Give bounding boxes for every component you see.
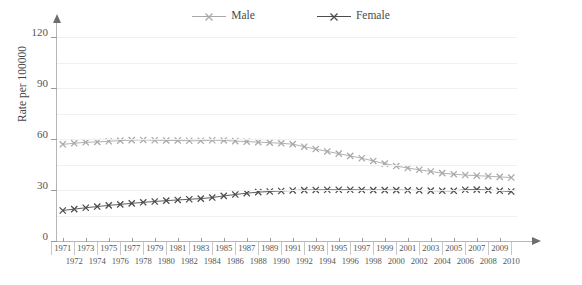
- x-tick: [454, 238, 455, 242]
- y-tick-label: 0: [0, 231, 48, 242]
- legend-label-male: Male: [231, 10, 255, 22]
- plot-area: [57, 29, 517, 241]
- legend-swatch-male: [192, 11, 226, 22]
- x-tick: [293, 238, 294, 242]
- y-tick-label: 60: [0, 129, 48, 140]
- x-axis-line: [57, 241, 533, 242]
- legend-item-male: Male: [192, 10, 255, 22]
- x-tick: [500, 238, 501, 242]
- x-label-separator: [51, 242, 52, 255]
- x-label-separator: [373, 242, 374, 255]
- x-tick: [86, 238, 87, 242]
- grid-line: [57, 216, 517, 217]
- series-layer: [57, 29, 517, 241]
- x-tick: [132, 238, 133, 242]
- x-label-separator: [442, 242, 443, 255]
- x-tick: [63, 238, 64, 242]
- data-point-marker: [370, 158, 376, 164]
- y-tick-label: 30: [0, 180, 48, 191]
- y-tick-label: 120: [0, 27, 48, 38]
- x-tick: [201, 238, 202, 242]
- x-tick: [385, 238, 386, 242]
- x-label-separator: [97, 242, 98, 255]
- legend-swatch-female: [317, 11, 351, 22]
- x-label-separator: [166, 242, 167, 255]
- x-tick: [155, 238, 156, 242]
- legend-item-female: Female: [317, 10, 390, 22]
- grid-line: [57, 88, 517, 89]
- x-label-separator: [419, 242, 420, 255]
- x-tick: [178, 238, 179, 242]
- x-tick: [224, 238, 225, 242]
- x-axis-arrow-icon: [532, 237, 541, 245]
- x-tick: [270, 238, 271, 242]
- x-label-separator: [189, 242, 190, 255]
- grid-line: [57, 165, 517, 166]
- grid-line: [57, 190, 517, 191]
- x-tick: [109, 238, 110, 242]
- x-label-separator: [327, 242, 328, 255]
- x-label-separator: [235, 242, 236, 255]
- legend-label-female: Female: [356, 10, 390, 22]
- y-tick-label: 90: [0, 78, 48, 89]
- grid-line: [57, 139, 517, 140]
- chart-container: Male Female Rate per 100000 0306090120 1…: [0, 0, 582, 285]
- x-label-separator: [74, 242, 75, 255]
- x-tick: [247, 238, 248, 242]
- x-tick: [431, 238, 432, 242]
- y-axis-arrow-icon: [53, 14, 61, 23]
- x-tick: [339, 238, 340, 242]
- x-label-separator: [350, 242, 351, 255]
- x-tick: [316, 238, 317, 242]
- x-label-separator: [281, 242, 282, 255]
- x-label-separator: [143, 242, 144, 255]
- x-label-separator: [511, 242, 512, 255]
- x-label-separator: [465, 242, 466, 255]
- x-label-separator: [120, 242, 121, 255]
- x-tick-label: 2010: [498, 256, 524, 266]
- x-label-separator: [304, 242, 305, 255]
- x-label-separator: [212, 242, 213, 255]
- x-tick-label: 2009: [487, 243, 513, 253]
- series-male: [60, 137, 515, 181]
- chart-legend: Male Female: [0, 6, 582, 26]
- x-label-separator: [258, 242, 259, 255]
- x-label-separator: [488, 242, 489, 255]
- x-tick: [362, 238, 363, 242]
- grid-line: [57, 114, 517, 115]
- x-label-separator: [396, 242, 397, 255]
- grid-line: [57, 37, 517, 38]
- x-tick: [477, 238, 478, 242]
- grid-line: [57, 63, 517, 64]
- x-tick: [408, 238, 409, 242]
